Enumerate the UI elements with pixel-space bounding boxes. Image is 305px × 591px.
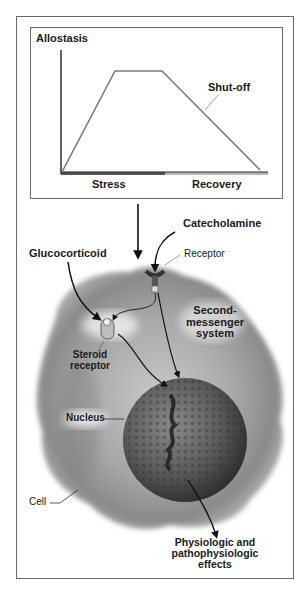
steroid-receptor-label: Steroid receptor [65, 350, 115, 371]
second-messenger-label: Second- messenger system [175, 305, 255, 340]
nucleus-label: Nucleus [66, 413, 105, 424]
cell-label: Cell [29, 497, 46, 508]
effects-label: Physiologic and pathophysiologic effects [165, 537, 265, 570]
catecholamine-arrow [155, 232, 175, 268]
shutoff-label: Shut-off [208, 82, 250, 94]
recovery-label: Recovery [192, 179, 242, 191]
allostasis-graph [61, 50, 268, 175]
nucleus [123, 378, 247, 502]
receptor-label: Receptor [184, 249, 225, 260]
stress-label: Stress [92, 179, 126, 191]
shutoff-leader [205, 95, 218, 110]
allostasis-label: Allostasis [36, 33, 88, 45]
glucocorticoid-label: Glucocorticoid [29, 248, 107, 260]
catecholamine-label: Catecholamine [183, 218, 261, 230]
